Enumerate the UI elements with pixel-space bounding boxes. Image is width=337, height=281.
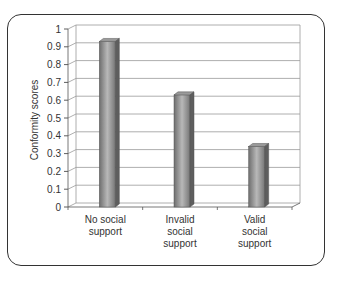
y-tick-label: 0	[55, 202, 61, 213]
x-category-label: No social	[85, 214, 126, 225]
y-tick-label: 0.5	[47, 113, 61, 124]
bar	[99, 38, 119, 207]
x-category-label: support	[163, 238, 197, 249]
x-category-label: social	[242, 226, 268, 237]
y-tick-label: 0.1	[47, 184, 61, 195]
y-tick-label: 0.6	[47, 95, 61, 106]
y-axis-label: Conformity scores	[29, 80, 40, 161]
x-category-label: support	[89, 226, 123, 237]
y-tick-label: 0.8	[47, 59, 61, 70]
y-tick-label: 1	[55, 24, 61, 35]
x-category-label: support	[238, 238, 272, 249]
y-tick-label: 0.9	[47, 41, 61, 52]
bars	[99, 38, 268, 207]
y-tick-label: 0.3	[47, 148, 61, 159]
conformity-bar-chart: 00.10.20.30.40.50.60.70.80.91 No socials…	[0, 0, 337, 281]
category-labels: No socialsupportInvalidsocialsupportVali…	[85, 214, 272, 249]
bar	[174, 92, 194, 207]
y-tick-label: 0.4	[47, 130, 61, 141]
x-category-label: Valid	[244, 214, 266, 225]
x-category-label: Invalid	[166, 214, 195, 225]
y-tick-label: 0.7	[47, 77, 61, 88]
y-tick-label: 0.2	[47, 166, 61, 177]
x-category-label: social	[167, 226, 193, 237]
bar	[249, 143, 269, 207]
